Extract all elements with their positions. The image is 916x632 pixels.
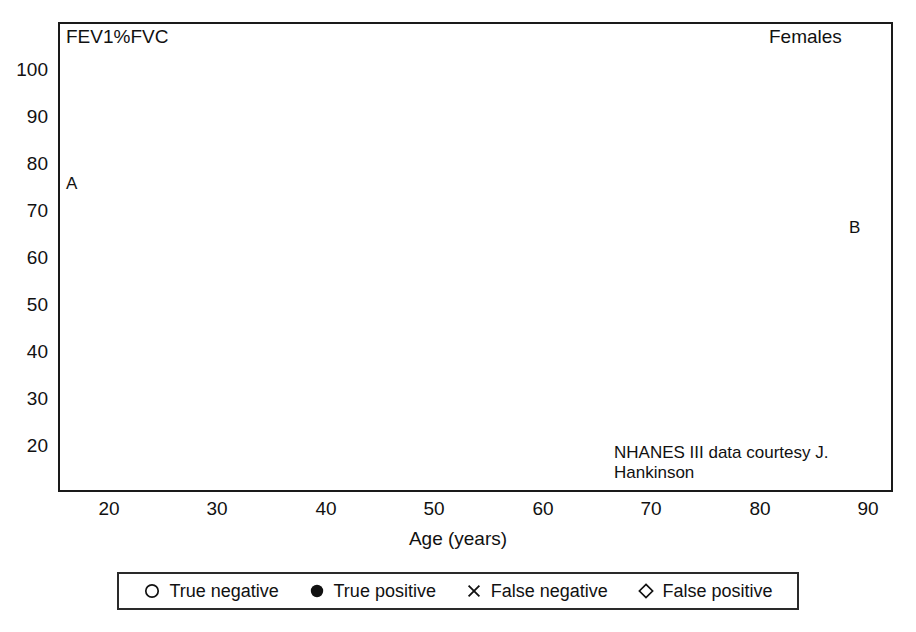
reference-line-b-label: B	[849, 218, 860, 238]
open-circle-icon	[143, 582, 161, 600]
y-tick-90: 90	[4, 106, 48, 128]
y-tick-50: 50	[4, 294, 48, 316]
group-label-females: Females	[769, 26, 842, 48]
chart-figure: FEV1%FVC Females NHANES III data courtes…	[0, 0, 916, 632]
y-tick-70: 70	[4, 200, 48, 222]
x-tick-80: 80	[730, 498, 790, 520]
data-credit-note: NHANES III data courtesy J. Hankinson	[614, 443, 893, 483]
legend-item-true-negative: True negative	[143, 581, 278, 602]
reference-line-a-label: A	[66, 174, 77, 194]
x-tick-50: 50	[404, 498, 464, 520]
x-tick-40: 40	[296, 498, 356, 520]
y-tick-60: 60	[4, 247, 48, 269]
x-tick-70: 70	[621, 498, 681, 520]
x-tick-20: 20	[79, 498, 139, 520]
legend-item-false-negative: False negative	[465, 581, 608, 602]
plot-area: FEV1%FVC Females NHANES III data courtes…	[58, 22, 893, 492]
legend-label-true-positive: True positive	[334, 581, 436, 602]
chart-legend: True negative True positive False negati…	[117, 572, 799, 610]
y-tick-30: 30	[4, 388, 48, 410]
x-axis-title: Age (years)	[0, 528, 916, 550]
x-tick-60: 60	[513, 498, 573, 520]
legend-label-false-negative: False negative	[491, 581, 608, 602]
open-diamond-icon	[637, 582, 655, 600]
x-tick-30: 30	[187, 498, 247, 520]
legend-item-true-positive: True positive	[308, 581, 436, 602]
y-tick-100: 100	[4, 59, 48, 81]
y-tick-20: 20	[4, 435, 48, 457]
y-tick-40: 40	[4, 341, 48, 363]
legend-item-false-positive: False positive	[637, 581, 773, 602]
legend-label-false-positive: False positive	[663, 581, 773, 602]
x-tick-90: 90	[838, 498, 898, 520]
plot-frame	[58, 22, 893, 492]
filled-circle-icon	[308, 582, 326, 600]
y-tick-80: 80	[4, 153, 48, 175]
legend-label-true-negative: True negative	[169, 581, 278, 602]
plot-title-fev1fvc: FEV1%FVC	[66, 26, 168, 48]
cross-icon	[465, 582, 483, 600]
